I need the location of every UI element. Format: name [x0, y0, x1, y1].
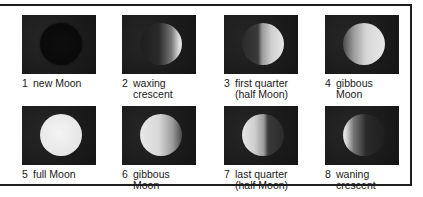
phase-caption: 8 waning crescent — [325, 169, 401, 191]
phase-cell-6: 6 gibbous Moon — [122, 106, 198, 191]
phase-cell-8: 8 waning crescent — [325, 106, 401, 191]
first-quarter-moon-icon — [242, 23, 284, 65]
phase-caption: 7 last quarter (half Moon) — [224, 169, 300, 191]
phase-label: waxing crescent — [133, 78, 173, 100]
phase-cell-4: 4 gibbous Moon — [325, 15, 401, 100]
full-moon-icon — [40, 114, 82, 156]
phase-cell-5: 5 full Moon — [22, 106, 98, 180]
phase-number: 1 — [22, 78, 33, 89]
phase-caption: 3 first quarter (half Moon) — [224, 78, 300, 100]
phase-cell-3: 3 first quarter (half Moon) — [224, 15, 300, 100]
moon-photo — [122, 106, 196, 165]
waning-crescent-moon-icon — [343, 114, 385, 156]
phase-number: 3 — [224, 78, 235, 100]
phase-number: 6 — [122, 169, 133, 191]
moon-photo — [325, 106, 399, 165]
phase-caption: 6 gibbous Moon — [122, 169, 198, 191]
phase-label: full Moon — [33, 169, 76, 180]
phase-label: gibbous Moon — [336, 78, 373, 100]
moon-photo — [22, 15, 96, 74]
phase-caption: 5 full Moon — [22, 169, 98, 180]
phase-cell-1: 1 new Moon — [22, 15, 98, 89]
moon-photo — [325, 15, 399, 74]
new-moon-icon — [40, 23, 82, 65]
phase-caption: 1 new Moon — [22, 78, 98, 89]
phase-caption: 4 gibbous Moon — [325, 78, 401, 100]
moon-photo — [122, 15, 196, 74]
phase-number: 2 — [122, 78, 133, 100]
phase-label: first quarter (half Moon) — [235, 78, 288, 100]
phase-number: 4 — [325, 78, 336, 100]
phase-number: 7 — [224, 169, 235, 191]
phase-label: last quarter (half Moon) — [235, 169, 288, 191]
waxing-gibbous-moon-icon — [343, 23, 385, 65]
waxing-crescent-moon-icon — [140, 23, 182, 65]
last-quarter-moon-icon — [242, 114, 284, 156]
phase-label: waning crescent — [336, 169, 376, 191]
phase-cell-2: 2 waxing crescent — [122, 15, 198, 100]
phase-number: 8 — [325, 169, 336, 191]
moon-photo — [22, 106, 96, 165]
phase-label: gibbous Moon — [133, 169, 170, 191]
phase-cell-7: 7 last quarter (half Moon) — [224, 106, 300, 191]
moon-photo — [224, 15, 298, 74]
phase-caption: 2 waxing crescent — [122, 78, 198, 100]
phase-label: new Moon — [33, 78, 81, 89]
phase-number: 5 — [22, 169, 33, 180]
waning-gibbous-moon-icon — [140, 114, 182, 156]
moon-photo — [224, 106, 298, 165]
